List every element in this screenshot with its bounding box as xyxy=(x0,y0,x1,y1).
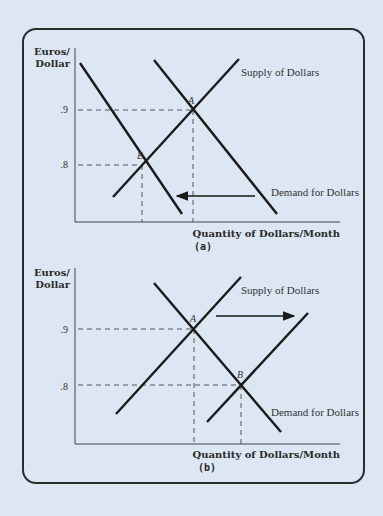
y-axis-title-line1: Euros/ xyxy=(34,267,70,278)
y-axis-title-line2: Dollar xyxy=(35,279,70,290)
point-b-label: B xyxy=(237,369,243,380)
panel-a-label: (a) xyxy=(194,241,212,252)
y-axis-title-line1: Euros/ xyxy=(34,46,70,57)
y-tick-0.8: .8 xyxy=(61,159,69,170)
supply-label: Supply of Dollars xyxy=(241,66,319,78)
x-axis-title: Quantity of Dollars/Month xyxy=(193,228,341,239)
demand-label: Demand for Dollars xyxy=(271,186,359,198)
supply-label: Supply of Dollars xyxy=(241,284,319,296)
panel-b: Euros/ Dollar .9 .8 A B Supply of Dollar… xyxy=(34,267,359,473)
y-axis-title-line2: Dollar xyxy=(35,58,70,69)
supply-curve xyxy=(113,59,239,197)
supply-curve-original xyxy=(116,277,241,414)
exchange-rate-diagram: Euros/ Dollar .9 .8 A B Supply of Dollar… xyxy=(0,0,383,516)
panel-a: Euros/ Dollar .9 .8 A B Supply of Dollar… xyxy=(34,46,359,252)
point-b-label: B xyxy=(137,150,143,161)
point-a-label: A xyxy=(189,313,197,324)
y-tick-0.9: .9 xyxy=(61,324,69,335)
y-tick-0.9: .9 xyxy=(61,104,69,115)
panel-b-label: (b) xyxy=(198,462,216,473)
y-tick-0.8: .8 xyxy=(61,381,69,392)
x-axis-title: Quantity of Dollars/Month xyxy=(193,449,341,460)
point-a-label: A xyxy=(187,95,195,106)
demand-label: Demand for Dollars xyxy=(271,406,359,418)
